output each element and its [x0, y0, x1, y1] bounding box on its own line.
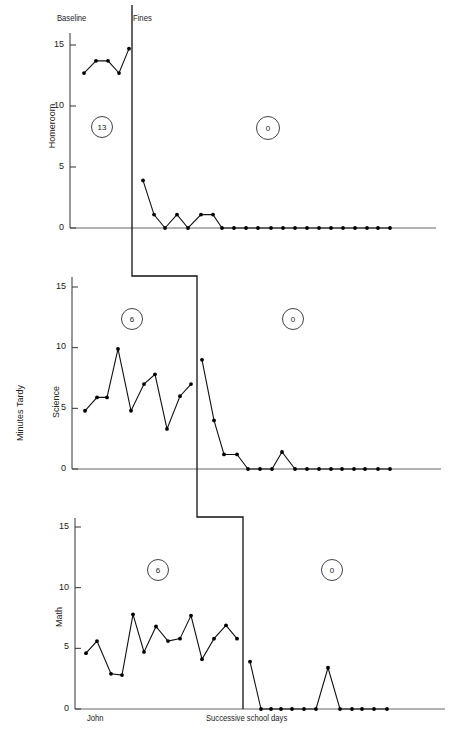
panel-label-math: Math [54, 607, 64, 627]
science-baseline-point [142, 382, 146, 386]
science-fines-point [340, 467, 344, 471]
math-fines-point [372, 707, 376, 711]
homeroom-fines-point [329, 226, 333, 230]
math-baseline-point [224, 623, 228, 627]
math-fines-point [350, 707, 354, 711]
science-baseline-point [129, 409, 133, 413]
math-baseline-point [154, 625, 158, 629]
phase-label-fines: Fines [133, 13, 152, 23]
math-baseline-point [178, 637, 182, 641]
science-fines-point [258, 467, 262, 471]
math-fines-point [279, 707, 283, 711]
science-fines-point [376, 467, 380, 471]
science-fines-point [352, 467, 356, 471]
math-tick-5: 5 [55, 641, 69, 651]
math-baseline-mean-circle: 6 [147, 559, 169, 581]
science-fines-point [235, 453, 239, 457]
homeroom-fines-point [175, 213, 179, 217]
phase-change-line [132, 5, 243, 709]
homeroom-baseline-point [94, 59, 98, 63]
science-baseline-point [83, 409, 87, 413]
science-fines-point [293, 467, 297, 471]
math-tick-0: 0 [55, 703, 69, 713]
homeroom-fines-point [293, 226, 297, 230]
science-fines-mean-circle: 0 [282, 308, 304, 330]
math-fines-point [360, 707, 364, 711]
homeroom-baseline-point [117, 71, 121, 75]
homeroom-baseline-point [106, 59, 110, 63]
science-fines-point [270, 467, 274, 471]
homeroom-fines-point [341, 226, 345, 230]
homeroom-fines-point [163, 226, 167, 230]
homeroom-fines-point [388, 226, 392, 230]
science-baseline-point [189, 382, 193, 386]
science-fines-point [363, 467, 367, 471]
math-baseline-point [235, 637, 239, 641]
homeroom-fines-point [365, 226, 369, 230]
science-fines-point [222, 453, 226, 457]
math-baseline-point [95, 639, 99, 643]
science-baseline-point [116, 347, 120, 351]
math-baseline-point [166, 639, 170, 643]
homeroom-fines-point [256, 226, 260, 230]
subject-label: John [87, 713, 104, 723]
science-fines-point [388, 467, 392, 471]
homeroom-fines-point [281, 226, 285, 230]
science-baseline-point [178, 394, 182, 398]
homeroom-fines-point [211, 213, 215, 217]
science-fines-point [280, 450, 284, 454]
homeroom-fines-point [305, 226, 309, 230]
homeroom-fines-point [186, 226, 190, 230]
math-fines-point [302, 707, 306, 711]
science-fines-point [305, 467, 309, 471]
homeroom-fines-point [353, 226, 357, 230]
homeroom-fines-point [269, 226, 273, 230]
science-baseline-point [95, 396, 99, 400]
math-fines-point [269, 707, 273, 711]
math-baseline-point [200, 657, 204, 661]
math-fines-point [326, 666, 330, 670]
math-fines-line [250, 662, 387, 709]
science-baseline-mean-circle: 6 [121, 308, 143, 330]
homeroom-fines-point [141, 179, 145, 183]
science-fines-point [200, 358, 204, 362]
math-baseline-point [84, 651, 88, 655]
panel-label-science: Science [51, 386, 61, 418]
science-fines-point [317, 467, 321, 471]
math-fines-point [314, 707, 318, 711]
homeroom-tick-5: 5 [50, 161, 64, 171]
homeroom-fines-point [317, 226, 321, 230]
homeroom-fines-point [152, 213, 156, 217]
science-tick-15: 15 [52, 281, 66, 291]
homeroom-fines-point [244, 226, 248, 230]
science-fines-point [329, 467, 333, 471]
homeroom-baseline-point [82, 71, 86, 75]
math-fines-point [248, 660, 252, 664]
homeroom-fines-point [376, 226, 380, 230]
homeroom-fines-point [220, 226, 224, 230]
homeroom-tick-0: 0 [50, 222, 64, 232]
homeroom-fines-point [232, 226, 236, 230]
science-tick-10: 10 [52, 341, 66, 351]
science-baseline-point [165, 427, 169, 431]
math-fines-point [290, 707, 294, 711]
multiple-baseline-chart [0, 0, 456, 736]
math-tick-10: 10 [55, 582, 69, 592]
science-tick-0: 0 [52, 463, 66, 473]
math-baseline-point [189, 614, 193, 618]
phase-label-baseline: Baseline [57, 13, 86, 23]
math-fines-point [259, 707, 263, 711]
homeroom-fines-mean-circle: 0 [256, 116, 280, 140]
math-baseline-line [86, 614, 237, 675]
homeroom-baseline-mean-circle: 13 [91, 116, 113, 138]
homeroom-fines-line [143, 180, 390, 228]
x-axis-title: Successive school days [206, 713, 287, 723]
y-axis-title: Minutes Tardy [15, 385, 25, 441]
math-baseline-point [120, 673, 124, 677]
math-baseline-point [142, 650, 146, 654]
homeroom-baseline-point [127, 47, 131, 51]
science-fines-point [212, 419, 216, 423]
science-baseline-line [85, 349, 191, 429]
math-baseline-point [212, 637, 216, 641]
math-fines-mean-circle: 0 [321, 559, 343, 581]
